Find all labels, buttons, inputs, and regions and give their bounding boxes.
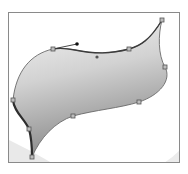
direction-handle-point[interactable] [75, 42, 79, 46]
opposite-handle-point[interactable] [95, 55, 98, 58]
anchor-lower-left[interactable] [27, 127, 31, 131]
anchor-top-right-tip[interactable] [160, 18, 164, 22]
anchor-top-mid[interactable] [127, 47, 131, 51]
bezier-diagram [0, 0, 188, 174]
anchor-right[interactable] [163, 65, 167, 69]
anchor-left[interactable] [11, 98, 15, 102]
anchor-bottom-tip[interactable] [30, 155, 34, 159]
anchor-bottom-right[interactable] [137, 100, 141, 104]
anchor-bottom-mid[interactable] [71, 114, 75, 118]
wave-shape[interactable] [13, 20, 167, 157]
ghost-arc-right [164, 150, 180, 163]
anchor-top-left[interactable] [51, 47, 55, 51]
